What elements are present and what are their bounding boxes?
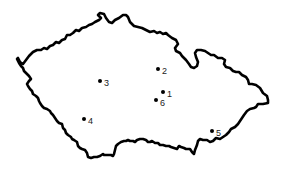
point-label: 4 (88, 116, 93, 126)
point-marker-icon (161, 90, 165, 94)
point-label: 3 (104, 78, 109, 88)
point-marker-icon (156, 67, 160, 71)
point-marker-icon (210, 129, 214, 133)
point-label: 6 (160, 98, 165, 108)
country-border (17, 13, 268, 158)
point-label: 5 (216, 128, 221, 138)
point-marker-icon (98, 79, 102, 83)
point-label: 1 (167, 89, 172, 99)
point-label: 2 (162, 66, 167, 76)
country-map (0, 0, 284, 173)
point-marker-icon (82, 117, 86, 121)
point-marker-icon (154, 98, 158, 102)
